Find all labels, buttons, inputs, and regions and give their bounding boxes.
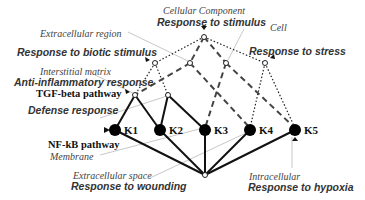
go-annotation-diagram: Cellular Component Response to stimulus … (0, 0, 365, 200)
kinase-node-k3 (199, 124, 211, 136)
label-response-to-wounding: Response to wounding (71, 181, 187, 192)
node-response-to-stress (263, 61, 268, 66)
node-defense-response (166, 93, 171, 98)
label-extracellular-region: Extracellular region (40, 29, 122, 39)
label-cellular-component: Cellular Component (163, 6, 245, 16)
node-extracellular-region (188, 61, 193, 66)
kinase-node-k1 (109, 124, 121, 136)
label-response-to-hypoxia: Response to hypoxia (248, 182, 354, 193)
kinase-node-k2 (154, 124, 166, 136)
node-response-to-wounding (203, 173, 208, 178)
label-cell: Cell (270, 23, 287, 33)
kinase-node-k4 (244, 124, 256, 136)
node-response-to-biotic-stimulus (153, 61, 158, 66)
node-response-to-stimulus (202, 35, 207, 40)
label-defense-response: Defense response (28, 105, 118, 116)
kinase-node-k5 (289, 124, 301, 136)
label-anti-inflammatory-response: Anti-inflammatory response (14, 77, 153, 88)
node-anti-inflammatory (133, 93, 138, 98)
label-nfkb-pathway: NF-kB pathway (48, 140, 119, 151)
label-response-to-biotic-stimulus: Response to biotic stimulus (17, 47, 157, 58)
node-cell (224, 61, 229, 66)
label-response-to-stimulus: Response to stimulus (157, 17, 266, 28)
kinase-label-k3: K3 (214, 125, 228, 136)
kinase-label-k1: K1 (124, 125, 138, 136)
kinase-label-k5: K5 (304, 125, 318, 136)
label-membrane: Membrane (50, 152, 93, 162)
kinase-label-k2: K2 (169, 125, 183, 136)
label-response-to-stress: Response to stress (249, 46, 346, 57)
label-tgf-beta-pathway: TGF-beta pathway (36, 89, 121, 100)
kinase-label-k4: K4 (259, 125, 273, 136)
